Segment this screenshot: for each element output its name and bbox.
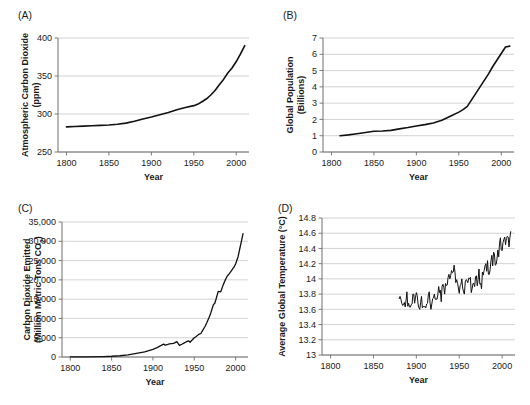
y-axis-title: Average Global Temperature (°C): [277, 216, 287, 357]
x-tick-label: 1950: [184, 363, 204, 373]
x-tick-label: 1850: [363, 361, 383, 371]
x-tick-label: 1800: [56, 158, 76, 168]
svg-text:(Million Metric Tons CO2): (Million Metric Tons CO2): [33, 236, 46, 343]
x-tick-label: 1900: [143, 363, 163, 373]
y-tick-label: 14.8: [298, 213, 316, 223]
y-tick-label: 14.6: [298, 228, 316, 238]
y-axis-title: Global Population(Billions): [285, 57, 306, 134]
x-tick-label: 1800: [321, 158, 341, 168]
y-tick-label: 13.8: [298, 289, 316, 299]
x-tick-label: 1850: [364, 158, 384, 168]
y-tick-label: 400: [37, 33, 52, 43]
data-series-line: [66, 46, 244, 127]
svg-text:Average Global Temperature (°C: Average Global Temperature (°C): [277, 216, 287, 357]
chart-d: 1313.213.413.613.81414.214.414.614.81800…: [265, 195, 530, 405]
x-tick-label: 1800: [321, 361, 341, 371]
x-tick-label: 2000: [492, 361, 512, 371]
y-tick-label: 0: [51, 352, 56, 362]
x-tick-label: 1900: [141, 158, 161, 168]
y-tick-label: 14.2: [298, 259, 316, 269]
x-tick-label: 1850: [99, 158, 119, 168]
y-tick-label: 6: [312, 49, 317, 59]
svg-text:Carbon Dioxide Emitted: Carbon Dioxide Emitted: [22, 238, 32, 340]
x-tick-label: 2000: [226, 158, 246, 168]
y-tick-label: 3: [312, 98, 317, 108]
x-tick-label: 2000: [226, 363, 246, 373]
chart-b: 0123456718001850190019502000YearGlobal P…: [265, 0, 530, 200]
x-axis-title: Year: [145, 377, 165, 387]
y-tick-label: 4: [312, 82, 317, 92]
x-tick-label: 1900: [406, 361, 426, 371]
y-axis-title: Atmospheric Carbon Dioxide(ppm): [20, 33, 41, 157]
y-tick-label: 0: [312, 147, 317, 157]
svg-text:(Billions): (Billions): [296, 76, 306, 115]
y-tick-label: 350: [37, 71, 52, 81]
x-tick-label: 1900: [406, 158, 426, 168]
panel-a: (A) 25030035040018001850190019502000Year…: [0, 0, 265, 200]
svg-text:(ppm): (ppm): [31, 83, 41, 108]
y-tick-label: 250: [37, 147, 52, 157]
data-series-line: [399, 232, 511, 310]
data-series-line: [340, 46, 510, 136]
chart-c: 05,00010,00015,00020,00025,00030,00035,0…: [0, 195, 265, 405]
x-tick-label: 1950: [449, 158, 469, 168]
panel-c: (C) 05,00010,00015,00020,00025,00030,000…: [0, 195, 265, 405]
y-tick-label: 13.2: [298, 335, 316, 345]
y-tick-label: 35,000: [28, 217, 56, 227]
y-tick-label: 13: [306, 350, 316, 360]
x-tick-label: 1950: [184, 158, 204, 168]
y-tick-label: 2: [312, 115, 317, 125]
x-axis-title: Year: [144, 172, 164, 182]
y-tick-label: 14: [306, 274, 316, 284]
x-tick-label: 1800: [60, 363, 80, 373]
y-tick-label: 14.4: [298, 244, 316, 254]
y-tick-label: 300: [37, 109, 52, 119]
y-tick-label: 13.6: [298, 305, 316, 315]
y-tick-label: 1: [312, 131, 317, 141]
y-tick-label: 5: [312, 66, 317, 76]
x-axis-title: Year: [409, 375, 429, 385]
x-axis-title: Year: [409, 172, 429, 182]
y-tick-label: 13.4: [298, 320, 316, 330]
panel-d: (D) 1313.213.413.613.81414.214.414.614.8…: [265, 195, 530, 405]
svg-text:Global Population: Global Population: [285, 57, 295, 134]
panel-b: (B) 0123456718001850190019502000YearGlob…: [265, 0, 530, 200]
x-tick-label: 1850: [102, 363, 122, 373]
x-tick-label: 2000: [491, 158, 511, 168]
chart-a: 25030035040018001850190019502000YearAtmo…: [0, 0, 265, 200]
y-tick-label: 7: [312, 33, 317, 43]
svg-text:Atmospheric Carbon Dioxide: Atmospheric Carbon Dioxide: [20, 33, 30, 157]
x-tick-label: 1950: [449, 361, 469, 371]
y-axis-title: Carbon Dioxide Emitted(Million Metric To…: [22, 236, 46, 343]
data-series-line: [70, 234, 243, 357]
